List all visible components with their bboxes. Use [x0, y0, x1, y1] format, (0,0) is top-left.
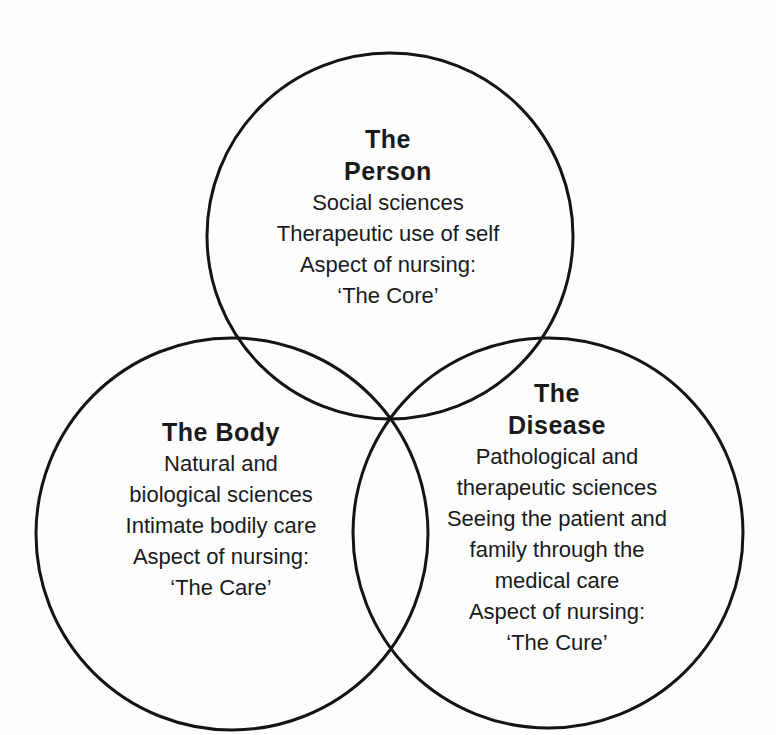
disease-text-line: therapeutic sciences: [447, 472, 667, 503]
body-text-line: Intimate bodily care: [126, 510, 317, 541]
body-title-line: The Body: [126, 416, 317, 448]
body-text-line: ‘The Care’: [126, 572, 317, 603]
disease-title-line: Disease: [447, 409, 667, 441]
person-text-line: Social sciences: [277, 187, 500, 218]
disease-text-line: Aspect of nursing:: [447, 596, 667, 627]
person-circle-label: The Person Social sciences Therapeutic u…: [277, 123, 500, 311]
disease-title-line: The: [447, 377, 667, 409]
person-text-line: ‘The Core’: [277, 280, 500, 311]
person-text-line: Therapeutic use of self: [277, 218, 500, 249]
body-text-line: biological sciences: [126, 479, 317, 510]
disease-text-line: ‘The Cure’: [447, 627, 667, 658]
disease-text-line: family through the: [447, 534, 667, 565]
body-text-line: Aspect of nursing:: [126, 541, 317, 572]
disease-text-line: medical care: [447, 565, 667, 596]
disease-circle-label: The Disease Pathological and therapeutic…: [447, 377, 667, 658]
disease-text-line: Pathological and: [447, 441, 667, 472]
body-text-line: Natural and: [126, 448, 317, 479]
venn-diagram: The Person Social sciences Therapeutic u…: [0, 0, 776, 735]
person-title-line: Person: [277, 155, 500, 187]
body-circle-label: The Body Natural and biological sciences…: [126, 416, 317, 603]
person-title-line: The: [277, 123, 500, 155]
disease-text-line: Seeing the patient and: [447, 503, 667, 534]
person-text-line: Aspect of nursing:: [277, 249, 500, 280]
